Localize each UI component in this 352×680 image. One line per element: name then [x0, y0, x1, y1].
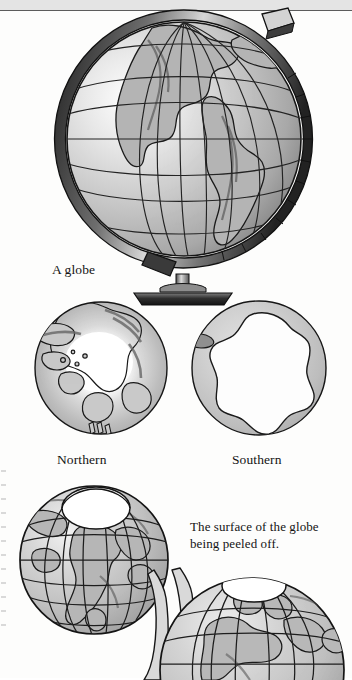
figure-southern-hemisphere: [189, 298, 329, 440]
adjacent-column-bleed: [0, 470, 7, 678]
caption-peeled-surface: The surface of the globe being peeled of…: [190, 518, 319, 552]
main-globe-illustration: [56, 6, 352, 306]
caption-southern: Southern: [232, 452, 282, 468]
peeling-polar-cap: [222, 570, 286, 602]
northern-hemisphere-illustration: [33, 298, 169, 440]
figure-main-globe: [56, 6, 352, 306]
southern-hemisphere-illustration: [189, 298, 329, 440]
caption-northern: Northern: [57, 452, 107, 468]
peeling-globe-right-illustration: [142, 568, 352, 680]
figure-northern-hemisphere: [33, 298, 169, 440]
figure-peeling-globe-right: [142, 568, 352, 678]
globe-sphere: [67, 22, 301, 256]
peeling-polar-cap: [62, 487, 130, 529]
caption-a-globe: A globe: [52, 262, 95, 278]
